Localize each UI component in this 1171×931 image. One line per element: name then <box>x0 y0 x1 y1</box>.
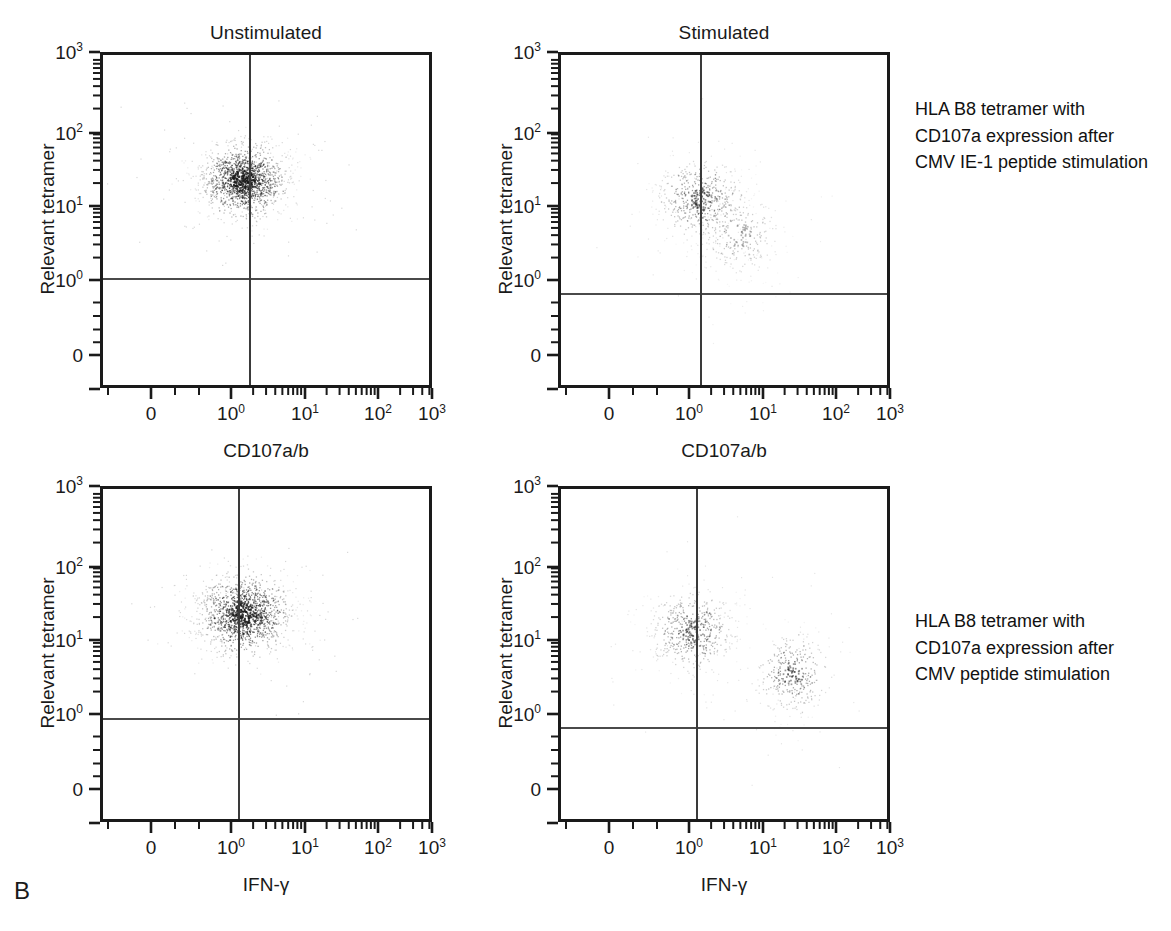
x-tick-label: 102 <box>822 404 850 423</box>
scatter-dots <box>561 489 887 819</box>
x-tick-label: 0 <box>146 838 157 857</box>
x-tick-label: 100 <box>217 404 245 423</box>
x-axis-title: CD107a/b <box>100 440 432 462</box>
x-tick-label: 103 <box>418 838 446 857</box>
y-axis-title: Relevant tetramer <box>37 51 59 387</box>
plot-frame <box>100 486 432 822</box>
flow-cytometry-figure: Unstimulated Stimulated <box>0 0 1171 931</box>
plot-frame <box>100 52 432 388</box>
x-tick-label: 0 <box>604 838 615 857</box>
scatter-dots <box>561 55 887 385</box>
quadrant-gate-vertical[interactable] <box>700 55 702 385</box>
y-axis-title: Relevant tetramer <box>495 485 517 821</box>
x-axis-title: IFN-γ <box>100 874 432 896</box>
panel-title: Stimulated <box>558 22 890 44</box>
quadrant-gate-vertical[interactable] <box>696 489 698 819</box>
plot-frame <box>558 486 890 822</box>
x-tick-label: 101 <box>749 404 777 423</box>
figure-letter: B <box>14 877 30 905</box>
plot-panel-stimulated-cd107: Stimulated <box>558 52 890 388</box>
annotation-top: HLA B8 tetramer with CD107a expression a… <box>915 96 1165 176</box>
annotation-bottom: HLA B8 tetramer with CD107a expression a… <box>915 608 1165 688</box>
x-axis-title: CD107a/b <box>558 440 890 462</box>
x-tick-label: 0 <box>146 404 157 423</box>
y-axis-title: Relevant tetramer <box>495 51 517 387</box>
y-axis-title: Relevant tetramer <box>37 485 59 821</box>
x-tick-label: 101 <box>291 838 319 857</box>
x-tick-label: 102 <box>822 838 850 857</box>
quadrant-gate-vertical[interactable] <box>249 55 251 385</box>
x-tick-label: 100 <box>675 838 703 857</box>
x-tick-label: 0 <box>604 404 615 423</box>
x-tick-label: 101 <box>291 404 319 423</box>
scatter-dots <box>103 55 429 385</box>
x-tick-label: 103 <box>876 404 904 423</box>
plot-panel-unstimulated-cd107: Unstimulated <box>100 52 432 388</box>
plot-panel-stimulated-ifng <box>558 486 890 822</box>
plot-panel-unstimulated-ifng <box>100 486 432 822</box>
x-tick-label: 100 <box>217 838 245 857</box>
x-tick-label: 103 <box>418 404 446 423</box>
scatter-dots <box>103 489 429 819</box>
quadrant-gate-horizontal[interactable] <box>561 727 887 729</box>
plot-frame <box>558 52 890 388</box>
quadrant-gate-horizontal[interactable] <box>561 293 887 295</box>
quadrant-gate-vertical[interactable] <box>238 489 240 819</box>
x-tick-label: 102 <box>364 838 392 857</box>
x-tick-label: 100 <box>675 404 703 423</box>
x-tick-label: 101 <box>749 838 777 857</box>
quadrant-gate-horizontal[interactable] <box>103 718 429 720</box>
x-tick-label: 103 <box>876 838 904 857</box>
panel-title: Unstimulated <box>100 22 432 44</box>
x-axis-title: IFN-γ <box>558 874 890 896</box>
quadrant-gate-horizontal[interactable] <box>103 278 429 280</box>
x-tick-label: 102 <box>364 404 392 423</box>
